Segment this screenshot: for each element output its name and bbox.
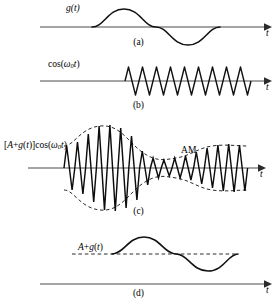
signal-label-c: [A+g(t)]cos(ω0t) <box>4 141 67 151</box>
axis-label-c: t <box>260 169 263 179</box>
signal-label-d: A+g(t) <box>78 243 103 253</box>
am-annotation-c: AM <box>181 145 197 155</box>
panel-a-plot <box>0 0 277 58</box>
am-modulation-figure: g(t) t (a) cos(ω0t) t (b) [A+g(t)]cos(ω0… <box>0 0 277 303</box>
caption-a: (a) <box>0 37 277 47</box>
panel-a: g(t) t (a) <box>0 0 277 58</box>
panel-c: [A+g(t)]cos(ω0t) AM t (c) <box>0 118 277 226</box>
panel-d: A+g(t) t (d) <box>0 232 277 303</box>
envelope-upper-c <box>64 126 248 160</box>
caption-b: (b) <box>0 100 277 110</box>
axis-label-b: t <box>266 82 269 92</box>
signal-label-b: cos(ω0t) <box>48 60 80 70</box>
signal-curve-c <box>64 125 248 211</box>
signal-label-a: g(t) <box>66 4 80 14</box>
caption-d: (d) <box>0 288 277 298</box>
caption-c: (c) <box>0 206 277 216</box>
panel-b: cos(ω0t) t (b) <box>0 56 277 118</box>
